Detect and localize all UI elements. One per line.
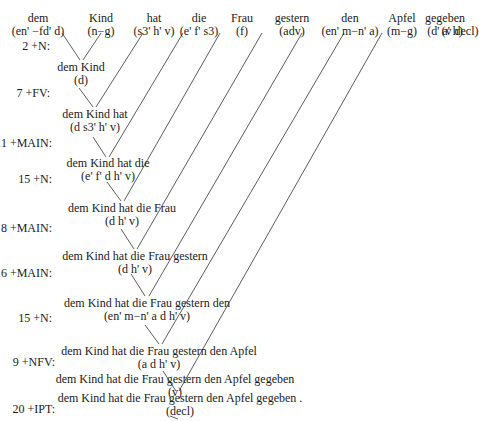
derived-node-9: dem Kind hat die Frau gestern den Apfel … [58,392,303,418]
word-1: Kind(n−g) [88,12,115,38]
derived-node-6: dem Kind hat die Frau gestern den(en' m−… [64,297,230,323]
rule-label-2: 7 +FV: [16,87,50,100]
word-6: den(en' m−n' a) [321,12,378,38]
rule-label-4: 15 +N: [18,173,52,186]
rule-label-9: 20 +IPT: [12,403,55,416]
derived-node-7: dem Kind hat die Frau gestern den Apfel(… [61,345,257,371]
word-7: Apfel(m−g) [387,12,417,38]
rule-label-1: 2 +N: [22,40,50,53]
derived-node-1: dem Kind(d) [57,61,105,87]
rule-label-3: 11 +MAIN: [0,137,52,150]
derived-node-3: dem Kind hat die(e' f' d h' v) [67,157,150,183]
rule-label-5: 8 +MAIN: [1,222,52,235]
rule-label-6: 16 +MAIN: [0,267,52,280]
word-0: dem(en' −fd' d) [12,12,64,38]
word-5: gestern(adv) [275,12,310,38]
word-9: .(v decl) [442,12,479,38]
derived-node-2: dem Kind hat(d s3' h' v) [62,108,127,134]
rule-label-8: 9 +NFV: [13,356,55,369]
derived-node-5: dem Kind hat die Frau gestern(d h' v) [62,250,208,276]
derived-node-4: dem Kind hat die Frau(d h' v) [68,202,176,228]
word-3: die(e' f' s3) [180,12,218,38]
word-2: hat(s3' h' v) [134,12,175,38]
word-4: Frau(f) [231,12,253,38]
rule-label-7: 15 +N: [18,312,52,325]
